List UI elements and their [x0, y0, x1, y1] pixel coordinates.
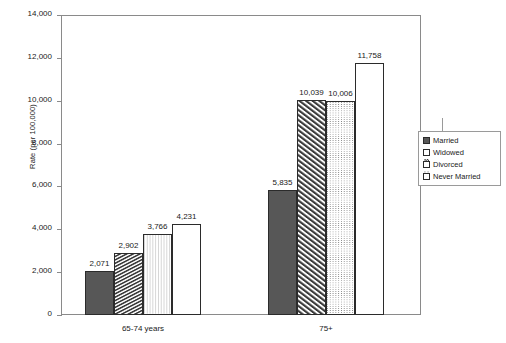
x-axis-category-label: 75+ [238, 324, 414, 333]
y-axis-title: Rate (per 100,000) [28, 57, 37, 217]
bar-value-label: 11,758 [347, 51, 392, 60]
bar-divorced-1 [326, 101, 355, 315]
legend-leader-line [442, 118, 443, 131]
y-axis-tick-mark [57, 315, 62, 316]
legend-item-label: Divorced [433, 160, 463, 169]
legend-swatch-icon [423, 137, 430, 144]
legend-item-label: Never Married [433, 172, 481, 181]
legend-item-widowed[interactable]: Widowed [423, 147, 497, 158]
legend-swatch-icon [423, 149, 430, 156]
y-axis-tick-mark [57, 144, 62, 145]
bar-never-married-1 [355, 63, 384, 315]
bar-chart: Rate (per 100,000) 02,0004,0006,0008,000… [0, 0, 506, 343]
legend-swatch-icon [423, 173, 430, 180]
y-axis-tick-mark [57, 229, 62, 230]
bar-divorced-0 [143, 234, 172, 315]
bar-married-0 [85, 271, 114, 315]
bar-widowed-0 [114, 253, 143, 315]
legend-item-label: Married [433, 136, 458, 145]
y-axis-tick-mark [57, 272, 62, 273]
y-axis-tick-label: 0 [48, 309, 52, 318]
legend-item-married[interactable]: Married [423, 135, 497, 146]
y-axis-tick-label: 10,000 [28, 95, 52, 104]
y-axis-tick-label: 4,000 [32, 223, 52, 232]
bar-never-married-0 [172, 224, 201, 315]
legend-item-never-married[interactable]: Never Married [423, 171, 497, 182]
bar-married-1 [268, 190, 297, 315]
legend-item-divorced[interactable]: Divorced [423, 159, 497, 170]
y-axis-tick-label: 14,000 [28, 9, 52, 18]
legend-swatch-icon [423, 161, 430, 168]
y-axis-tick-mark [57, 58, 62, 59]
y-axis-tick-label: 6,000 [32, 180, 52, 189]
legend: MarriedWidowedDivorcedNever Married [418, 131, 501, 186]
y-axis-tick-label: 12,000 [28, 52, 52, 61]
bar-widowed-1 [297, 100, 326, 315]
legend-item-label: Widowed [433, 148, 464, 157]
y-axis-tick-mark [57, 186, 62, 187]
y-axis-tick-label: 8,000 [32, 138, 52, 147]
y-axis-tick-mark [57, 101, 62, 102]
y-axis-tick-mark [57, 15, 62, 16]
y-axis-tick-label: 2,000 [32, 266, 52, 275]
bar-value-label: 4,231 [164, 212, 209, 221]
x-axis-category-label: 65-74 years [55, 324, 231, 333]
